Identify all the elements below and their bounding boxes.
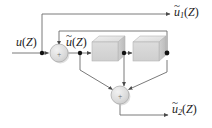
block-delay-1 [92, 36, 125, 61]
label-internal-u-tilde: u~(Z) [66, 36, 87, 48]
sum-junction-top-label: + [57, 50, 61, 59]
sum-junction-bottom-label: + [118, 92, 122, 101]
label-input-u: u(Z) [16, 36, 37, 48]
block-delay-2 [133, 36, 166, 61]
label-output-u1: u~1(Z) [174, 6, 199, 20]
node-after-sum [78, 51, 82, 55]
node-right [165, 51, 170, 56]
signal-tap-c-to-sum-bottom [129, 60, 168, 90]
node-between-blocks [122, 51, 126, 55]
label-output-u2: u~2(Z) [172, 103, 197, 117]
signal-output-2-branch [120, 104, 168, 115]
node-input-tap [40, 51, 44, 55]
block-diagram-figure: + + u(Z) u~(Z) u~1(Z) u~2(Z) [0, 0, 212, 128]
sum-junction-bottom: + [111, 86, 130, 105]
